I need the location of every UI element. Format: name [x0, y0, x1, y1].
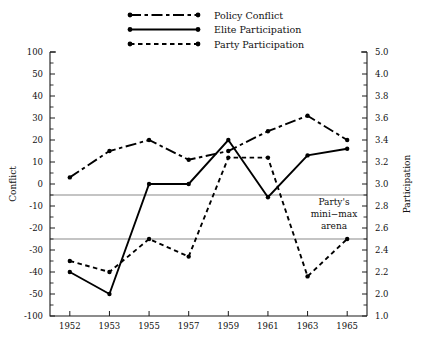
- data-point: [68, 270, 72, 274]
- left-axis-tick-label: 20: [32, 135, 43, 145]
- left-axis-tick-label: 0: [38, 179, 43, 189]
- data-point: [226, 149, 230, 153]
- data-point: [107, 292, 111, 296]
- right-axis-tick-label: 2.4: [375, 245, 389, 255]
- right-axis-tick-label: 3.6: [375, 113, 389, 123]
- data-point: [68, 175, 72, 179]
- left-axis-tick-label: -20: [29, 223, 43, 233]
- right-axis-tick-label: 3.4: [375, 135, 389, 145]
- data-point: [266, 195, 270, 199]
- x-axis-tick-label: 1952: [59, 321, 81, 331]
- right-axis-tick-label: 2.6: [375, 223, 389, 233]
- right-axis-tick-label: 5.0: [375, 47, 389, 57]
- legend-marker-end: [196, 27, 201, 32]
- data-point: [345, 138, 349, 142]
- x-axis-tick-label: 1953: [99, 321, 121, 331]
- left-axis-tick-label: -50: [29, 289, 43, 299]
- data-point: [226, 138, 230, 142]
- right-axis-tick-label: 2.8: [375, 201, 389, 211]
- x-axis-tick-label: 1963: [297, 321, 319, 331]
- left-axis-tick-label: 30: [32, 113, 43, 123]
- data-point: [107, 270, 111, 274]
- legend-marker-end: [196, 13, 201, 18]
- left-axis-tick-label: -100: [24, 311, 43, 321]
- data-point: [305, 114, 309, 118]
- data-point: [345, 237, 349, 241]
- data-point: [266, 155, 270, 159]
- data-point: [305, 274, 309, 278]
- data-point: [186, 254, 190, 258]
- chart-container: 1005.0504.0403.8303.6203.4103.203.0-102.…: [0, 0, 425, 342]
- legend-label-policy-conflict: Policy Conflict: [214, 10, 283, 21]
- legend-marker-start: [128, 27, 133, 32]
- data-point: [266, 129, 270, 133]
- legend-marker-end: [196, 42, 201, 47]
- right-axis-tick-label: 3.0: [375, 179, 389, 189]
- right-axis-title: Participation: [402, 155, 412, 214]
- left-axis-tick-label: 40: [32, 91, 43, 101]
- left-axis-tick-label: 100: [27, 47, 43, 57]
- right-axis-tick-label: 3.8: [375, 91, 389, 101]
- legend-marker-start: [128, 42, 133, 47]
- data-point: [226, 155, 230, 159]
- legend-marker-start: [128, 13, 133, 18]
- series-line-party-participation: [70, 158, 347, 277]
- data-point: [186, 182, 190, 186]
- x-axis-tick-label: 1961: [257, 321, 279, 331]
- x-axis-tick-label: 1955: [138, 321, 160, 331]
- legend-label-party-participation: Party Participation: [214, 39, 304, 50]
- right-axis-tick-label: 1.0: [375, 311, 389, 321]
- left-axis-title: Conflict: [8, 166, 18, 202]
- data-point: [305, 153, 309, 157]
- right-axis-tick-label: 4.0: [375, 69, 389, 79]
- data-point: [345, 147, 349, 151]
- legend-label-elite-participation: Elite Participation: [214, 24, 301, 35]
- annotation-party-minimax-arena: Party's: [318, 197, 349, 207]
- left-axis-tick-label: 10: [32, 157, 43, 167]
- x-axis-tick-label: 1965: [336, 321, 358, 331]
- data-point: [147, 182, 151, 186]
- plot-frame: [50, 52, 367, 316]
- data-point: [107, 149, 111, 153]
- left-axis-tick-label: -30: [29, 245, 43, 255]
- left-axis-tick-label: -10: [29, 201, 43, 211]
- conflict-participation-line-chart: 1005.0504.0403.8303.6203.4103.203.0-102.…: [0, 0, 425, 342]
- data-point: [147, 138, 151, 142]
- right-axis-tick-label: 2.0: [375, 289, 389, 299]
- data-point: [186, 158, 190, 162]
- x-axis-tick-label: 1959: [217, 321, 239, 331]
- left-axis-tick-label: -40: [29, 267, 43, 277]
- annotation-party-minimax-arena: mini−max: [311, 209, 358, 219]
- series-line-policy-conflict: [70, 116, 347, 178]
- x-axis-tick-label: 1957: [178, 321, 200, 331]
- right-axis-tick-label: 2.2: [375, 267, 389, 277]
- data-point: [147, 237, 151, 241]
- annotation-party-minimax-arena: arena: [321, 221, 348, 231]
- right-axis-tick-label: 3.2: [375, 157, 389, 167]
- data-point: [68, 259, 72, 263]
- left-axis-tick-label: 50: [32, 69, 43, 79]
